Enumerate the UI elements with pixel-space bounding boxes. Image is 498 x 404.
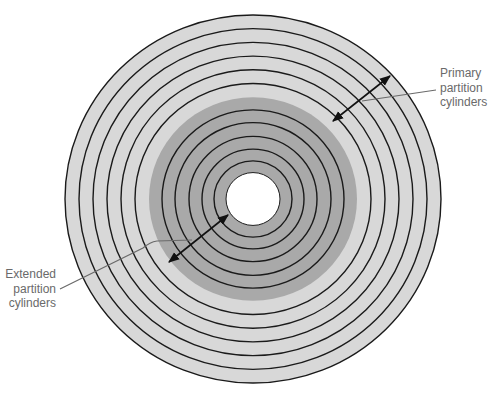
primary-partition-label: Primary partition cylinders [440, 66, 487, 110]
disk-rings [65, 15, 441, 383]
primary-label-line: Primary [440, 66, 487, 81]
primary-label-line: partition [440, 81, 487, 96]
extended-label-line: partition [5, 282, 56, 297]
extended-partition-label: Extended partition cylinders [5, 267, 56, 311]
extended-label-line: cylinders [5, 296, 56, 311]
extended-label-line: Extended [5, 267, 56, 282]
primary-label-line: cylinders [440, 95, 487, 110]
disk-partition-diagram: Primary partition cylinders Extended par… [0, 0, 498, 404]
disk-platter-graphic [0, 0, 498, 404]
spindle-hole [226, 173, 280, 226]
